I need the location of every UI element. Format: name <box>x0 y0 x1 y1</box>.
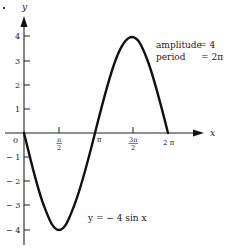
y-tick-m1: − 1 <box>6 153 20 162</box>
y-tick-3: 3 <box>15 57 20 66</box>
equation-label: y = − 4 sin x <box>87 213 147 223</box>
y-tick-m4: − 4 <box>6 226 20 235</box>
period-key: period <box>156 52 186 62</box>
amplitude-value: = 4 <box>199 40 215 50</box>
x-axis: x 0 π 2 π 3π 2 2 π <box>5 127 215 152</box>
amplitude-key: amplitude <box>156 40 202 50</box>
svg-text:2: 2 <box>57 144 61 152</box>
x-axis-arrow-icon <box>193 130 204 137</box>
x-tick-2pi: 2 π <box>163 139 175 147</box>
period-value: = 2π <box>201 52 223 62</box>
y-tick-4: 4 <box>15 32 20 41</box>
corner-mark <box>3 7 5 9</box>
x-tick-half-pi: π 2 <box>57 136 63 152</box>
amplitude-annotation: amplitude = 4 <box>156 40 215 50</box>
y-tick-m3: − 3 <box>6 201 20 210</box>
svg-text:2: 2 <box>131 144 135 152</box>
y-tick-m2: − 2 <box>6 177 20 186</box>
y-axis: y 4 3 2 1 − 1 − 2 − 3 − 4 <box>6 2 30 245</box>
y-axis-label: y <box>21 2 28 12</box>
period-annotation: period = 2π <box>156 52 223 62</box>
svg-text:π: π <box>57 136 62 144</box>
x-tick-3half-pi: 3π 2 <box>129 136 139 152</box>
sine-chart: y 4 3 2 1 − 1 − 2 − 3 − 4 x 0 <box>0 0 226 248</box>
y-axis-arrow-icon <box>21 16 28 27</box>
y-tick-1: 1 <box>15 105 20 114</box>
y-tick-2: 2 <box>15 81 20 90</box>
svg-text:3π: 3π <box>129 136 138 144</box>
origin-label: 0 <box>13 136 18 145</box>
x-axis-label: x <box>210 128 215 138</box>
x-tick-pi: π <box>97 136 102 144</box>
